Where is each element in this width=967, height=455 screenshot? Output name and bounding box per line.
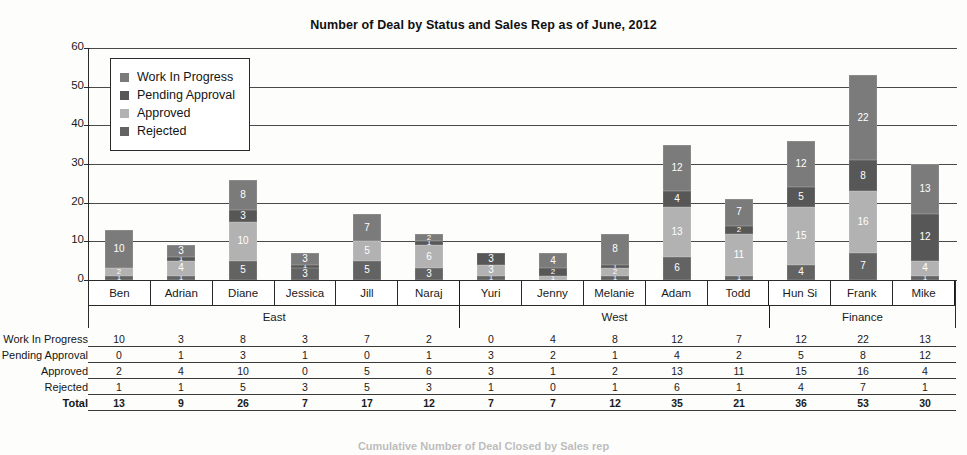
stacked-bar[interactable]: 3141 [167,245,196,280]
bar-segment-approved[interactable]: 5 [353,241,382,260]
bar-column-jill[interactable]: 755 [336,48,398,280]
stacked-bar[interactable]: 228167 [849,75,878,280]
bar-segment-approved[interactable]: 2 [601,268,630,276]
bar-column-hun-si[interactable]: 125154 [770,48,832,280]
bar-segment-work-in-progress[interactable]: 10 [105,230,134,269]
stacked-bar[interactable]: 125154 [787,141,816,280]
page-title: Number of Deal by Status and Sales Rep a… [0,18,967,32]
stacked-bar[interactable]: 72111 [725,199,754,280]
bar-segment-pending-approval[interactable]: 3 [477,253,506,265]
bar-column-mike[interactable]: 131241 [894,48,956,280]
bar-segment-approved[interactable]: 16 [849,191,878,253]
table-cell: 11 [708,363,770,379]
bar-segment-work-in-progress[interactable]: 2 [415,234,444,242]
stacked-bar[interactable]: 131241 [911,164,940,280]
bar-column-todd[interactable]: 72111 [708,48,770,280]
stacked-bar[interactable]: 8121 [601,234,630,280]
category-label-jill[interactable]: Jill [336,281,398,305]
bar-column-melanie[interactable]: 8121 [584,48,646,280]
bar-segment-rejected[interactable]: 5 [229,261,258,280]
category-label-adam[interactable]: Adam [646,281,708,305]
legend-item-pending-approval[interactable]: Pending Approval [120,88,235,102]
category-label-todd[interactable]: Todd [708,281,770,305]
bar-segment-rejected[interactable]: 3 [291,268,320,280]
bar-segment-work-in-progress[interactable]: 4 [539,253,568,268]
table-cell: 16 [832,363,894,379]
bar-segment-approved[interactable]: 13 [663,207,692,257]
bar-segment-work-in-progress[interactable]: 12 [663,145,692,191]
bar-segment-work-in-progress[interactable]: 8 [229,180,258,211]
bar-column-jenny[interactable]: 421 [522,48,584,280]
bar-segment-rejected[interactable]: 3 [415,268,444,280]
category-label-mike[interactable]: Mike [893,281,955,305]
bar-segment-rejected[interactable]: 6 [663,257,692,280]
bar-segment-approved[interactable]: 4 [167,261,196,276]
bar-segment-work-in-progress[interactable]: 3 [291,253,320,265]
bar-segment-approved[interactable]: 4 [911,261,940,276]
bar-column-jessica[interactable]: 313 [274,48,336,280]
category-label-melanie[interactable]: Melanie [584,281,646,305]
stacked-bar[interactable]: 421 [539,253,568,280]
bar-column-yuri[interactable]: 331 [460,48,522,280]
bar-segment-work-in-progress[interactable]: 8 [601,234,630,265]
category-label-yuri[interactable]: Yuri [460,281,522,305]
bar-segment-rejected[interactable]: 7 [849,253,878,280]
bar-segment-work-in-progress[interactable]: 7 [725,199,754,226]
y-tick-label-60: 60 [50,40,84,52]
table-cell: 3 [150,331,212,347]
category-label-jenny[interactable]: Jenny [522,281,584,305]
bar-column-adam[interactable]: 124136 [646,48,708,280]
legend-item-rejected[interactable]: Rejected [120,124,235,138]
bar-segment-pending-approval[interactable]: 8 [849,160,878,191]
bar-segment-pending-approval[interactable]: 2 [725,226,754,234]
bar-segment-work-in-progress[interactable]: 12 [787,141,816,187]
table-cell: 3 [460,347,522,363]
table-cell: 15 [770,363,832,379]
bar-segment-rejected[interactable]: 4 [787,265,816,280]
stacked-bar[interactable]: 313 [291,253,320,280]
table-cell: 8 [212,331,274,347]
bar-segment-work-in-progress[interactable]: 13 [911,164,940,214]
table-cell: 12 [398,395,460,411]
bar-column-frank[interactable]: 228167 [832,48,894,280]
bar-segment-approved[interactable]: 10 [229,222,258,261]
table-cell: 2 [88,363,150,379]
bar-segment-approved[interactable]: 6 [415,245,444,268]
bar-segment-approved[interactable]: 15 [787,207,816,265]
stacked-bar[interactable]: 331 [477,253,506,280]
stacked-bar[interactable]: 1021 [105,230,134,280]
stacked-bar[interactable]: 755 [353,214,382,280]
table-cell: 21 [708,395,770,411]
category-label-adrian[interactable]: Adrian [151,281,213,305]
category-label-frank[interactable]: Frank [831,281,893,305]
category-label-hun-si[interactable]: Hun Si [769,281,831,305]
table-cell: 0 [336,347,398,363]
stacked-bar[interactable]: 124136 [663,145,692,280]
stacked-bar[interactable]: 2163 [415,234,444,280]
bar-segment-pending-approval[interactable]: 4 [663,191,692,206]
bar-segment-work-in-progress[interactable]: 22 [849,75,878,160]
bar-segment-work-in-progress[interactable]: 3 [167,245,196,257]
table-cell: 1 [522,363,584,379]
table-cell: 1 [460,379,522,395]
category-label-naraj[interactable]: Naraj [398,281,460,305]
bar-segment-pending-approval[interactable]: 12 [911,214,940,260]
bar-segment-pending-approval[interactable]: 2 [539,268,568,276]
legend-item-work-in-progress[interactable]: Work In Progress [120,70,235,84]
bar-segment-rejected[interactable]: 5 [353,261,382,280]
category-label-ben[interactable]: Ben [89,281,151,305]
category-label-jessica[interactable]: Jessica [275,281,337,305]
bar-segment-pending-approval[interactable]: 3 [229,210,258,222]
legend-item-approved[interactable]: Approved [120,106,235,120]
bar-segment-approved[interactable]: 11 [725,234,754,277]
table-cell: 8 [832,347,894,363]
table-cell: 12 [584,395,646,411]
bar-segment-approved[interactable]: 2 [105,268,134,276]
category-label-diane[interactable]: Diane [213,281,275,305]
stacked-bar[interactable]: 83105 [229,180,258,281]
bar-column-naraj[interactable]: 2163 [398,48,460,280]
bar-segment-work-in-progress[interactable]: 7 [353,214,382,241]
bar-segment-pending-approval[interactable]: 5 [787,187,816,206]
table-cell: 12 [894,347,956,363]
bar-segment-approved[interactable]: 3 [477,265,506,277]
